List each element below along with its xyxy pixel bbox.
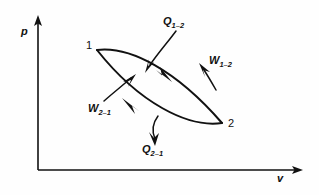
pv-cycle-figure: p v 1 2 Q1–2 W1–2 W2–1 Q2–1 [0, 0, 319, 195]
heat-label-q-2-1-sub: 2–1 [151, 149, 164, 158]
w12-leader-line [204, 70, 216, 90]
work-label-w-2-1-main: W [88, 102, 98, 114]
cycle-loop-group [97, 50, 222, 124]
process-path-1-to-2 [97, 50, 222, 123]
w21-leader-line [104, 78, 131, 101]
work-label-w-1-2: W1–2 [209, 55, 232, 66]
state-point-label-1: 1 [86, 40, 92, 51]
state-point-label-2: 2 [228, 118, 234, 129]
axes-group [34, 15, 303, 174]
q12-leader-line [150, 31, 176, 65]
heat-label-q-1-2: Q1–2 [163, 16, 184, 27]
volume-axis-label: v [277, 173, 283, 184]
pressure-axis-label: p [21, 26, 28, 37]
heat-label-q-2-1-main: Q [142, 143, 151, 155]
work-label-w-2-1-sub: 2–1 [98, 108, 111, 117]
process-path-2-to-1 [97, 50, 222, 124]
heat-label-q-1-2-sub: 1–2 [172, 21, 185, 30]
lower-path-direction-arrowhead-icon [122, 98, 139, 114]
work-label-w-1-2-main: W [209, 54, 219, 66]
work-label-w-2-1: W2–1 [88, 103, 111, 114]
diagram-canvas [0, 0, 319, 195]
heat-label-q-2-1: Q2–1 [142, 144, 163, 155]
cycle-direction-arrowheads [122, 67, 172, 114]
heat-label-q-1-2-main: Q [163, 15, 172, 27]
work-label-w-1-2-sub: 1–2 [219, 60, 232, 69]
